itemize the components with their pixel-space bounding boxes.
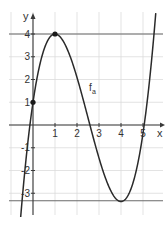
axis-ticks: 12345-3-2-11234 [21, 29, 146, 199]
y-tick-label: -1 [21, 142, 30, 153]
x-tick-label: 4 [118, 128, 124, 139]
function-label: fa [89, 82, 96, 95]
y-tick-label: 3 [24, 51, 30, 62]
y-tick-label: 4 [24, 29, 30, 40]
x-tick-label: 2 [74, 128, 80, 139]
x-tick-label: 3 [96, 128, 102, 139]
x-tick-label: 1 [52, 128, 58, 139]
marked-point [30, 100, 35, 105]
y-axis-arrow-icon [31, 13, 36, 19]
reference-lines [9, 34, 163, 201]
y-axis-label: y [23, 10, 29, 22]
x-axis-label: x [157, 127, 163, 139]
y-tick-label: 1 [24, 97, 30, 108]
function-graph: 12345-3-2-11234 x y fa [0, 0, 168, 227]
marked-point [52, 31, 57, 36]
y-tick-label: 2 [24, 74, 30, 85]
function-curve-fa [21, 13, 156, 217]
